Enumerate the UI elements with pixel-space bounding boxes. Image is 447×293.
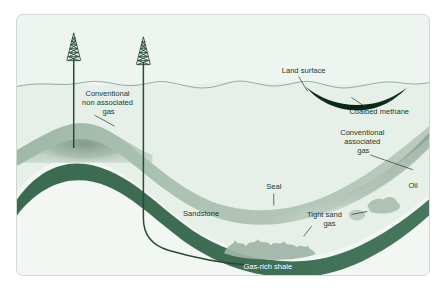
label-line: Coalbed methane	[349, 107, 409, 116]
label-sandstone: Sandstone	[183, 209, 219, 218]
label-line: Conventional	[85, 89, 129, 98]
label-line: Oil	[408, 181, 418, 190]
geology-cross-section-figure: Conventional non associated gas Land sur…	[16, 14, 430, 276]
svg-text:Coalbed methane: Coalbed methane	[349, 107, 409, 116]
cross-section-canvas: Conventional non associated gas Land sur…	[17, 15, 429, 275]
drilling-derrick-horizontal-well	[136, 37, 150, 65]
svg-text:Land surface: Land surface	[282, 66, 326, 75]
svg-text:Gas-rich shale: Gas-rich shale	[243, 262, 292, 271]
label-line: gas	[357, 146, 369, 155]
label-line: Conventional	[340, 128, 384, 137]
label-oil: Oil	[408, 181, 418, 190]
label-line: Gas-rich shale	[243, 262, 292, 271]
drilling-derrick-vertical-well	[67, 33, 81, 61]
label-line: non associated	[82, 98, 133, 107]
svg-text:Oil: Oil	[408, 181, 418, 190]
label-line: Sandstone	[183, 209, 219, 218]
label-gas-rich-shale: Gas-rich shale	[243, 262, 292, 271]
label-line: Tight sand	[307, 210, 342, 219]
svg-text:Sandstone: Sandstone	[183, 209, 219, 218]
label-line: gas	[102, 107, 114, 116]
label-line: gas	[323, 219, 335, 228]
label-line: Seal	[266, 182, 281, 191]
svg-text:Seal: Seal	[266, 182, 281, 191]
label-line: Land surface	[282, 66, 326, 75]
label-line: associated	[344, 137, 380, 146]
